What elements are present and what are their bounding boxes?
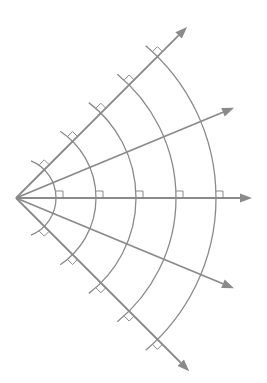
right-angle-icon <box>96 103 106 108</box>
right-angle-icon <box>152 344 162 349</box>
arrowhead-icon <box>221 108 234 117</box>
right-angle-icon <box>39 160 49 165</box>
right-angle-icon <box>124 75 134 80</box>
ray-down-22 <box>16 198 223 284</box>
arrowhead-icon <box>240 194 252 203</box>
right-angle-icon <box>216 191 223 198</box>
right-angle-icon <box>96 288 106 293</box>
right-angle-icon <box>96 191 103 198</box>
right-angle-icon <box>39 231 49 236</box>
right-angle-icon <box>176 191 183 198</box>
right-angle-icon <box>56 191 63 198</box>
wavefront-ray-diagram <box>0 0 267 383</box>
ray-up-22 <box>16 112 223 198</box>
right-angle-icon <box>68 260 78 265</box>
ray-down-45 <box>16 198 181 363</box>
right-angle-icon <box>136 191 143 198</box>
right-angle-icon <box>152 47 162 52</box>
right-angle-icon <box>68 132 78 137</box>
right-angle-icon <box>124 316 134 321</box>
arrowhead-icon <box>221 280 234 289</box>
